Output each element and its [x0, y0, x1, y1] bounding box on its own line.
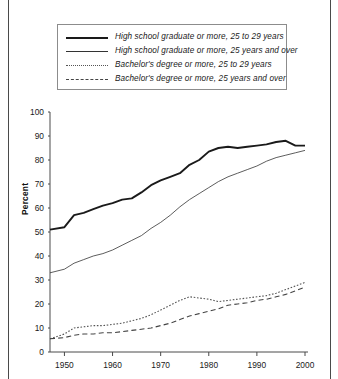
- x-axis-tick-labels: 195019601970198019902000: [48, 358, 310, 372]
- chart-plot-svg: [48, 108, 310, 356]
- page-border-left: [8, 0, 9, 379]
- plot-area: [48, 108, 310, 356]
- legend-line-sample-thick-solid-icon: [66, 32, 108, 42]
- legend-line-sample-dotted-icon: [66, 60, 108, 70]
- legend-line-sample-dashed-icon: [66, 74, 108, 84]
- legend-item-label: Bachelor's degree or more, 25 years and …: [115, 74, 286, 84]
- x-axis-tick-label: 1950: [55, 360, 74, 370]
- x-axis-tick-label: 1960: [103, 360, 122, 370]
- y-axis-tick-labels: 0102030405060708090100: [20, 108, 44, 356]
- y-axis-tick-label: 100: [22, 108, 44, 116]
- x-axis-tick-label: 1970: [151, 360, 170, 370]
- x-axis-tick-label: 1990: [248, 360, 267, 370]
- y-axis-tick-label: 40: [22, 252, 44, 260]
- data-series-line-2: [50, 282, 305, 338]
- y-axis-tick-label: 60: [22, 204, 44, 212]
- data-series-line-0: [50, 141, 305, 230]
- y-axis-tick-label: 70: [22, 180, 44, 188]
- y-axis-tick-label: 90: [22, 132, 44, 140]
- legend-item-hs-25-over: High school graduate or more, 25 years a…: [58, 44, 286, 58]
- y-axis-tick-label: 80: [22, 156, 44, 164]
- legend-item-label: Bachelor's degree or more, 25 to 29 year…: [115, 60, 272, 70]
- x-axis-tick-label: 1980: [199, 360, 218, 370]
- legend-item-label: High school graduate or more, 25 years a…: [115, 46, 298, 56]
- legend-item-hs-25-29: High school graduate or more, 25 to 29 y…: [58, 30, 286, 44]
- y-axis-tick-label: 50: [22, 228, 44, 236]
- legend-item-label: High school graduate or more, 25 to 29 y…: [115, 32, 284, 42]
- y-axis-tick-label: 20: [22, 300, 44, 308]
- page-border-right: [330, 0, 331, 379]
- y-axis-tick-label: 10: [22, 324, 44, 332]
- legend-line-sample-thin-solid-icon: [66, 46, 108, 56]
- data-series-line-3: [50, 287, 305, 339]
- x-axis-tick-label: 2000: [296, 360, 315, 370]
- y-axis-tick-label: 30: [22, 276, 44, 284]
- y-axis-tick-label: 0: [22, 348, 44, 356]
- page-canvas: High school graduate or more, 25 to 29 y…: [0, 0, 338, 379]
- legend-item-bachelors-25-29: Bachelor's degree or more, 25 to 29 year…: [58, 58, 286, 72]
- legend-item-bachelors-25-over: Bachelor's degree or more, 25 years and …: [58, 72, 286, 86]
- chart-legend: High school graduate or more, 25 to 29 y…: [57, 24, 287, 90]
